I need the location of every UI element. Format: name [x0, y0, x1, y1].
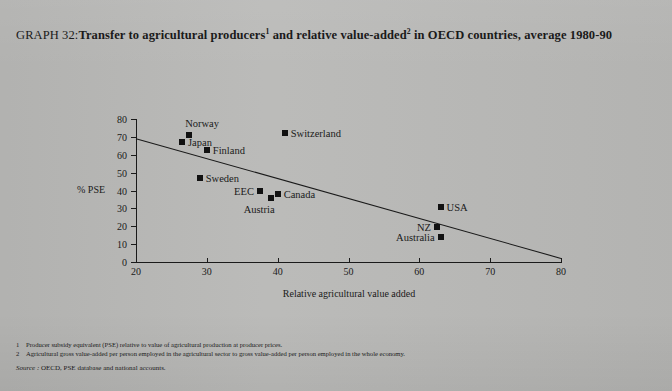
footnote-text: Producer subsidy equivalent (PSE) relati…: [26, 341, 282, 350]
x-axis-tick-label: 80: [556, 266, 566, 277]
y-axis-tick: [131, 137, 136, 138]
footnotes: 1 Producer subsidy equivalent (PSE) rela…: [16, 341, 656, 358]
y-axis-tick-label: 60: [105, 149, 127, 160]
data-point-label: USA: [447, 201, 468, 212]
footnote-number: 1: [16, 341, 26, 350]
x-axis-tick: [278, 258, 279, 262]
data-point-label: Australia: [396, 231, 435, 242]
data-point-label: Finland: [213, 145, 245, 156]
x-axis-tick: [207, 258, 208, 262]
y-axis-tick: [131, 208, 136, 209]
x-axis-tick: [490, 258, 491, 262]
source-line: Source : OECD, PSE database and national…: [16, 364, 166, 372]
footnote-item: 2 Agricultural gross value-added per per…: [16, 350, 656, 359]
data-point-marker: [275, 191, 281, 197]
x-axis-title: Relative agricultural value added: [283, 288, 415, 299]
source-text: OECD, PSE database and national accounts…: [39, 364, 165, 372]
data-point-marker: [197, 175, 203, 181]
y-axis-tick: [131, 262, 136, 263]
y-axis-tick-label: 0: [105, 257, 127, 268]
x-axis-tick-label: 30: [202, 266, 212, 277]
data-point-label: Canada: [284, 189, 316, 200]
x-axis-tick-label: 20: [131, 266, 141, 277]
trend-line: [0, 0, 672, 320]
data-point-label: Switzerland: [291, 128, 341, 139]
footnote-number: 2: [16, 350, 26, 359]
x-axis-tick: [349, 258, 350, 262]
footnote-text: Agricultural gross value-added per perso…: [26, 350, 405, 359]
data-point-marker: [179, 139, 185, 145]
y-axis-tick: [131, 244, 136, 245]
y-axis-tick-label: 30: [105, 203, 127, 214]
y-axis-tick-label: 20: [105, 221, 127, 232]
x-axis-tick: [136, 258, 137, 262]
data-point-marker: [257, 188, 263, 194]
x-axis-tick-label: 50: [344, 266, 354, 277]
y-axis-title: % PSE: [77, 184, 105, 195]
data-point-marker: [268, 195, 274, 201]
x-axis-tick-label: 40: [273, 266, 283, 277]
data-point-marker: [438, 204, 444, 210]
y-axis-tick: [131, 173, 136, 174]
x-axis-tick: [419, 258, 420, 262]
y-axis-tick-label: 80: [105, 114, 127, 125]
y-axis-tick: [131, 119, 136, 120]
source-label: Source :: [16, 364, 39, 372]
y-axis-tick: [131, 191, 136, 192]
x-axis-tick-label: 70: [485, 266, 495, 277]
scatter-plot: % PSE Relative agricultural value added …: [0, 0, 672, 320]
data-point-label: EEC: [234, 185, 254, 196]
x-axis-tick-label: 60: [414, 266, 424, 277]
data-point-label: Norway: [185, 118, 219, 129]
data-point-marker: [434, 224, 440, 230]
data-point-label: Sweden: [206, 172, 239, 183]
y-axis-tick-label: 50: [105, 167, 127, 178]
y-axis-tick: [131, 226, 136, 227]
y-axis-tick: [131, 155, 136, 156]
y-axis-tick-label: 40: [105, 185, 127, 196]
y-axis-tick-label: 10: [105, 239, 127, 250]
footnote-item: 1 Producer subsidy equivalent (PSE) rela…: [16, 341, 656, 350]
data-point-marker: [438, 234, 444, 240]
data-point-marker: [282, 130, 288, 136]
data-point-label: Austria: [244, 203, 275, 214]
x-axis-tick: [561, 258, 562, 262]
y-axis-tick-label: 70: [105, 131, 127, 142]
data-point-marker: [204, 147, 210, 153]
data-point-label: Japan: [188, 137, 212, 148]
